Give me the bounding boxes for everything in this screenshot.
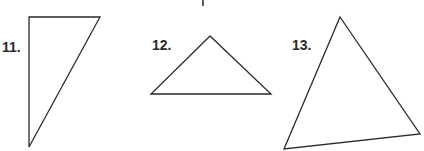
triangles-figure bbox=[0, 0, 424, 151]
triangle-11 bbox=[29, 17, 100, 147]
problem-label-13: 13. bbox=[292, 38, 311, 52]
problem-label-12: 12. bbox=[152, 38, 171, 52]
problem-label-11: 11. bbox=[2, 40, 21, 54]
